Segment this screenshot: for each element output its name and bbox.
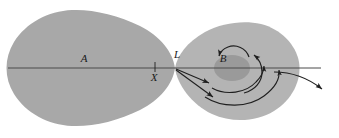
label-A: A — [80, 52, 88, 64]
roche-lobe-figure: A L X B — [0, 0, 339, 138]
label-X: X — [150, 71, 159, 83]
label-B: B — [220, 52, 227, 64]
roche-lobe-diagram-canvas: A L X B — [0, 0, 339, 138]
label-L: L — [173, 48, 180, 60]
